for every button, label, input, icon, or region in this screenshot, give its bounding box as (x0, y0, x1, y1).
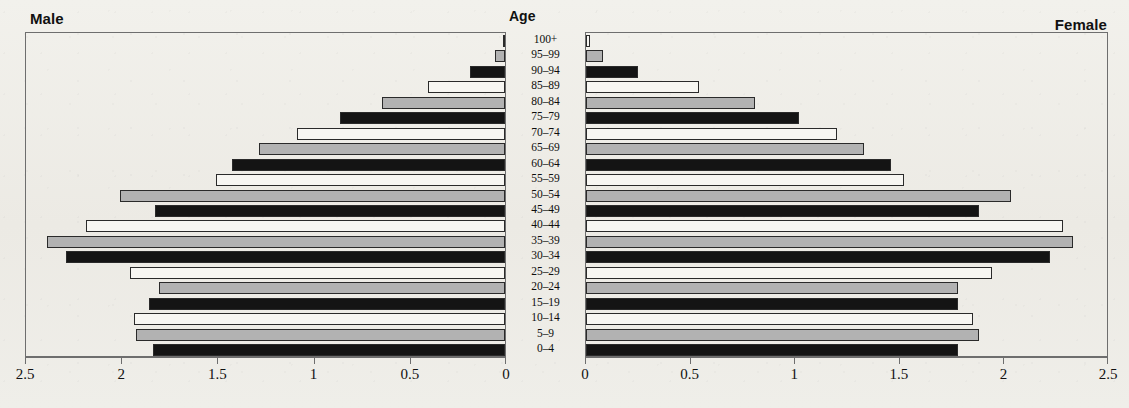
axis-tick-label-0: 0 (502, 366, 510, 383)
axis-tick (794, 358, 795, 364)
axis-tick-label-1.5: 1.5 (208, 366, 227, 383)
bar-male-100+ (503, 35, 505, 47)
axis-tick-label-1: 1 (790, 366, 798, 383)
bar-male-40-44 (86, 220, 505, 232)
axis-tick (217, 358, 218, 364)
bar-male-50-54 (120, 190, 505, 202)
axis-tick (899, 358, 900, 364)
axis-tick-label-1: 1 (310, 366, 318, 383)
axis-tick (1003, 358, 1004, 364)
axis-tick (1107, 358, 1108, 364)
bar-male-30-34 (66, 251, 505, 263)
female-panel-title: Female (1055, 16, 1107, 33)
age-label-column: 100+95–9990–9485–8980–8475–7970–7465–696… (506, 32, 585, 357)
age-label-85-89: 85–89 (506, 80, 585, 91)
axis-tick (410, 358, 411, 364)
bar-female-5-9 (586, 329, 979, 341)
age-label-25-29: 25–29 (506, 266, 585, 277)
axis-tick (505, 358, 506, 364)
age-label-50-54: 50–54 (506, 189, 585, 200)
axis-tick (25, 358, 26, 364)
bar-female-50-54 (586, 190, 1011, 202)
age-label-55-59: 55–59 (506, 173, 585, 184)
bar-female-35-39 (586, 236, 1073, 248)
age-label-5-9: 5–9 (506, 328, 585, 339)
age-label-45-49: 45–49 (506, 204, 585, 215)
bar-male-65-69 (259, 143, 505, 155)
bar-female-55-59 (586, 174, 904, 186)
age-label-40-44: 40–44 (506, 219, 585, 230)
age-label-30-34: 30–34 (506, 250, 585, 261)
bar-male-75-79 (340, 112, 505, 124)
bar-male-35-39 (47, 236, 505, 248)
age-column-title-text: Age (509, 8, 535, 24)
bar-male-10-14 (134, 313, 505, 325)
bar-female-65-69 (586, 143, 864, 155)
male-panel-title: Male (30, 10, 64, 27)
age-label-0-4: 0–4 (506, 343, 585, 354)
axis-tick (314, 358, 315, 364)
age-label-65-69: 65–69 (506, 142, 585, 153)
bar-male-70-74 (297, 128, 505, 140)
age-label-80-84: 80–84 (506, 96, 585, 107)
bar-male-85-89 (428, 81, 505, 93)
bar-male-55-59 (216, 174, 505, 186)
axis-tick (121, 358, 122, 364)
bar-female-45-49 (586, 205, 979, 217)
bar-female-90-94 (586, 66, 638, 78)
bar-female-15-19 (586, 298, 958, 310)
bar-male-95-99 (495, 50, 505, 62)
male-bar-group (26, 33, 505, 356)
female-bar-group (586, 33, 1107, 356)
bar-female-40-44 (586, 220, 1063, 232)
axis-tick-label-1.5: 1.5 (889, 366, 908, 383)
bar-female-10-14 (586, 313, 973, 325)
age-label-15-19: 15–19 (506, 297, 585, 308)
male-plot-area (25, 32, 506, 357)
bar-female-85-89 (586, 81, 699, 93)
age-label-95-99: 95–99 (506, 49, 585, 60)
axis-tick (585, 358, 586, 364)
axis-tick (690, 358, 691, 364)
bar-female-30-34 (586, 251, 1050, 263)
age-label-75-79: 75–79 (506, 111, 585, 122)
bar-female-75-79 (586, 112, 799, 124)
bar-male-0-4 (153, 344, 505, 356)
axis-tick-label-2.5: 2.5 (16, 366, 35, 383)
bar-female-80-84 (586, 97, 755, 109)
bar-female-25-29 (586, 267, 992, 279)
axis-tick-label-2: 2 (117, 366, 125, 383)
female-plot-area (585, 32, 1108, 357)
age-label-10-14: 10–14 (506, 312, 585, 323)
male-x-axis (25, 357, 506, 365)
bar-male-25-29 (130, 267, 505, 279)
axis-tick-label-0.5: 0.5 (400, 366, 419, 383)
bar-female-0-4 (586, 344, 958, 356)
bar-male-15-19 (149, 298, 505, 310)
age-label-100+: 100+ (506, 34, 585, 45)
female-x-axis (585, 357, 1108, 365)
axis-tick-label-0: 0 (581, 366, 589, 383)
age-label-70-74: 70–74 (506, 127, 585, 138)
bar-female-70-74 (586, 128, 837, 140)
bar-male-80-84 (382, 97, 505, 109)
age-label-60-64: 60–64 (506, 158, 585, 169)
age-label-20-24: 20–24 (506, 281, 585, 292)
age-label-90-94: 90–94 (506, 65, 585, 76)
bar-female-100+ (586, 35, 590, 47)
bar-male-60-64 (232, 159, 505, 171)
bar-male-90-94 (470, 66, 505, 78)
bar-female-95-99 (586, 50, 603, 62)
bar-male-5-9 (136, 329, 505, 341)
axis-tick-label-2.5: 2.5 (1099, 366, 1118, 383)
age-label-35-39: 35–39 (506, 235, 585, 246)
bar-male-45-49 (155, 205, 505, 217)
axis-tick-label-0.5: 0.5 (680, 366, 699, 383)
bar-male-20-24 (159, 282, 505, 294)
axis-tick-label-2: 2 (1000, 366, 1008, 383)
bar-female-60-64 (586, 159, 891, 171)
bar-female-20-24 (586, 282, 958, 294)
